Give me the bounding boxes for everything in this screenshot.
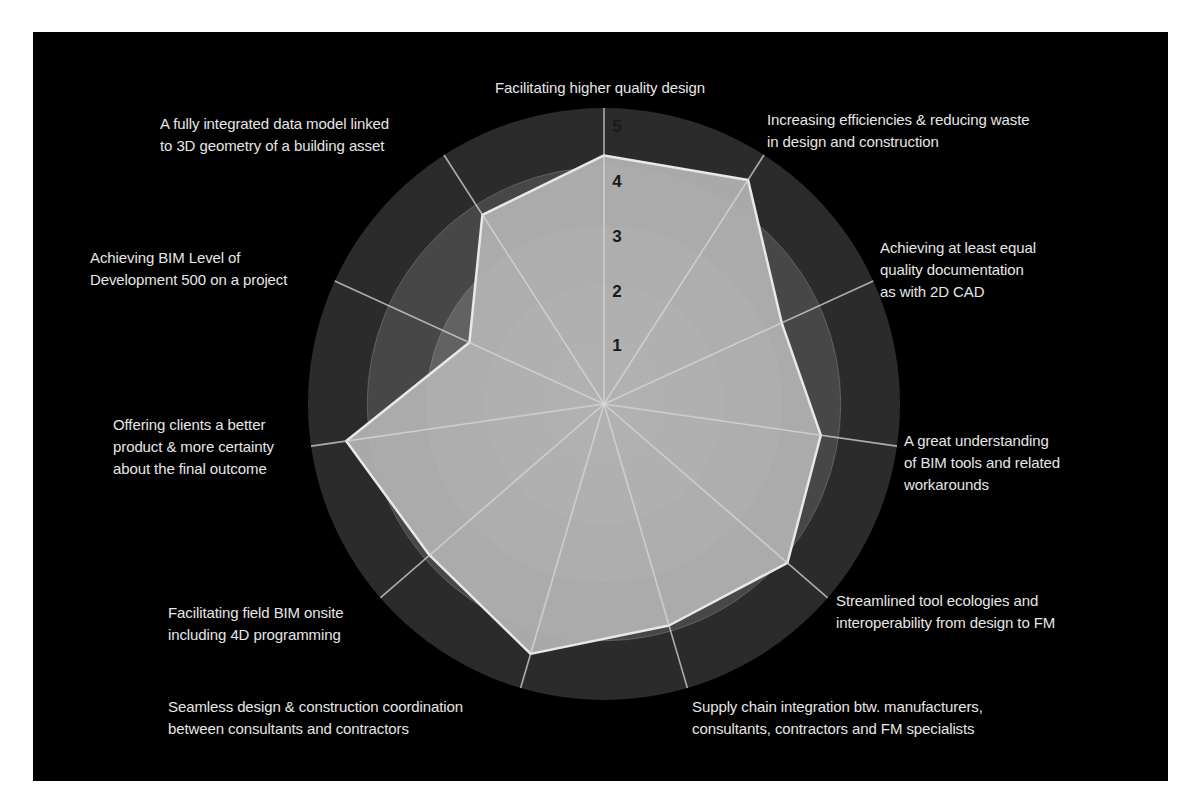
axis-label-line: to 3D geometry of a building asset bbox=[160, 135, 389, 157]
axis-label-line: A fully integrated data model linked bbox=[160, 113, 389, 135]
axis-label-line: Development 500 on a project bbox=[90, 269, 287, 291]
axis-label-line: Seamless design & construction coordinat… bbox=[168, 696, 463, 718]
axis-label-line: consultants, contractors and FM speciali… bbox=[692, 718, 983, 740]
axis-label-better-product: Offering clients a better product & more… bbox=[113, 414, 274, 480]
axis-label-line: Supply chain integration btw. manufactur… bbox=[692, 696, 983, 718]
axis-label-line: between consultants and contractors bbox=[168, 718, 463, 740]
axis-label-supply-chain: Supply chain integration btw. manufactur… bbox=[692, 696, 983, 740]
axis-label-efficiencies: Increasing efficiencies & reducing waste… bbox=[767, 109, 1030, 153]
axis-label-line: Achieving at least equal bbox=[880, 237, 1036, 259]
axis-label-line: Facilitating field BIM onsite bbox=[168, 602, 344, 624]
axis-label-line: in design and construction bbox=[767, 131, 1030, 153]
axis-label-line: Offering clients a better bbox=[113, 414, 274, 436]
tick-label-5: 5 bbox=[612, 117, 621, 136]
tick-label-1: 1 bbox=[612, 336, 621, 355]
axis-label-lod-500: Achieving BIM Level of Development 500 o… bbox=[90, 247, 287, 291]
axis-label-field-bim: Facilitating field BIM onsite including … bbox=[168, 602, 344, 646]
axis-label-streamlined-tools: Streamlined tool ecologies and interoper… bbox=[836, 590, 1055, 634]
axis-label-line: of BIM tools and related bbox=[904, 452, 1060, 474]
axis-label-line: about the final outcome bbox=[113, 458, 274, 480]
tick-label-2: 2 bbox=[612, 282, 621, 301]
axis-label-line: as with 2D CAD bbox=[880, 281, 1036, 303]
axis-label-line: Increasing efficiencies & reducing waste bbox=[767, 109, 1030, 131]
axis-label-line: A great understanding bbox=[904, 430, 1060, 452]
axis-label-equal-documentation: Achieving at least equal quality documen… bbox=[880, 237, 1036, 303]
axis-label-line: quality documentation bbox=[880, 259, 1036, 281]
axis-label-higher-quality-design: Facilitating higher quality design bbox=[0, 77, 1194, 99]
axis-label-line: Streamlined tool ecologies and bbox=[836, 590, 1055, 612]
axis-label-seamless-coordination: Seamless design & construction coordinat… bbox=[168, 696, 463, 740]
axis-label-line: workarounds bbox=[904, 474, 1060, 496]
axis-label-bim-tools: A great understanding of BIM tools and r… bbox=[904, 430, 1060, 496]
axis-label-line: Facilitating higher quality design bbox=[6, 77, 1194, 99]
axis-label-line: including 4D programming bbox=[168, 624, 344, 646]
axis-label-line: product & more certainty bbox=[113, 436, 274, 458]
tick-label-3: 3 bbox=[612, 227, 621, 246]
axis-label-line: interoperability from design to FM bbox=[836, 612, 1055, 634]
tick-label-4: 4 bbox=[612, 172, 622, 191]
axis-label-integrated-data-model: A fully integrated data model linked to … bbox=[160, 113, 389, 157]
axis-label-line: Achieving BIM Level of bbox=[90, 247, 287, 269]
